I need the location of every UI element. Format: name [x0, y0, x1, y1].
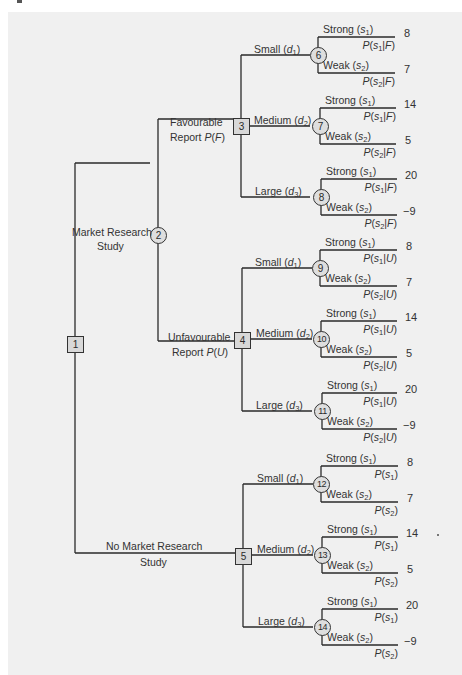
paren: ) — [369, 201, 373, 213]
state-label-weak: Weak (s2) — [325, 272, 371, 284]
branch-label-unfavourable: Unfavourable — [168, 331, 230, 343]
paren: ) — [373, 307, 377, 319]
node-number: 13 — [318, 550, 327, 560]
prob-part: ) — [394, 217, 398, 229]
state-label-strong: Strong (s1) — [323, 23, 373, 35]
prob-part: ) — [394, 359, 398, 371]
node-number: 10 — [317, 334, 326, 344]
prob-part: U — [386, 395, 394, 407]
state-label-strong: Strong (s1) — [326, 307, 376, 319]
decision-node-5: 5 — [235, 548, 252, 565]
state-text: Strong ( — [326, 165, 363, 177]
payoff-value: 5 — [405, 134, 411, 146]
label-text: Small — [255, 256, 281, 268]
probability-label: P(s1) — [375, 611, 398, 623]
probability-label: P(s2|F) — [364, 217, 397, 229]
probability-label: P(s2) — [375, 647, 398, 659]
label-prefix: Report — [172, 346, 206, 358]
node-number: 6 — [316, 50, 322, 61]
decision-label-large-U: Large (d3) — [256, 399, 303, 411]
branch-label-no-market-research: No Market Research — [106, 540, 202, 552]
decision-label-small-F: Small (d1) — [254, 43, 300, 55]
probability-label: P(s1|F) — [362, 39, 395, 51]
state-text: Strong ( — [327, 523, 364, 535]
state-label-weak: Weak (s2) — [323, 59, 369, 71]
payoff-value: 8 — [406, 240, 412, 252]
label-prefix: Report — [170, 131, 204, 143]
state-text: Strong ( — [325, 94, 362, 106]
prob-part: P — [375, 647, 382, 659]
decision-node-4: 4 — [234, 332, 251, 349]
state-text: Weak ( — [326, 343, 359, 355]
subscript: 2 — [307, 548, 311, 557]
node-number: 12 — [317, 479, 326, 489]
payoff-value: 20 — [406, 599, 418, 611]
decision-node-3: 3 — [233, 118, 250, 135]
paren: ) — [221, 131, 225, 143]
paren: ) — [370, 415, 374, 427]
stray-mark — [437, 534, 439, 536]
subscript: 3 — [294, 190, 298, 199]
probability-label: P(s1|F) — [363, 110, 396, 122]
label-line: Study — [97, 240, 124, 252]
prob-part: P — [375, 539, 382, 551]
prob-part: P — [375, 504, 382, 516]
label-text: Large — [256, 399, 283, 411]
probability-label: P(s2|F) — [362, 75, 395, 87]
state-text: Weak ( — [325, 130, 358, 142]
payoff-value: −9 — [403, 205, 416, 217]
prob-part: ) — [394, 288, 398, 300]
node-number: 4 — [240, 335, 246, 346]
prob-part: U — [386, 288, 394, 300]
prob-part: ) — [393, 146, 397, 158]
label-text: Small — [257, 472, 283, 484]
paren: ) — [370, 559, 374, 571]
label-text: Large — [258, 615, 285, 627]
prob-part: U — [386, 252, 394, 264]
state-label-weak: Weak (s2) — [326, 488, 372, 500]
prob-part: P — [375, 611, 382, 623]
decision-label-medium-F: Medium (d2) — [254, 114, 311, 126]
label-text: Medium — [254, 114, 291, 126]
state-text: Weak ( — [327, 631, 360, 643]
state-label-strong: Strong (s1) — [325, 236, 375, 248]
subscript: 2 — [304, 119, 308, 128]
prob-part: ) — [394, 323, 398, 335]
branch-label-favourable-prob: Report P(F) — [170, 131, 225, 143]
label-line: No Market Research — [106, 540, 202, 552]
branch-label-unfavourable-prob: Report P(U) — [172, 346, 228, 358]
state-text: Weak ( — [323, 59, 356, 71]
state-text: Weak ( — [326, 201, 359, 213]
node-number: 8 — [319, 192, 325, 203]
payoff-value: 8 — [407, 456, 413, 468]
payoff-value: −9 — [403, 419, 416, 431]
node-number: 14 — [318, 622, 327, 632]
paren: ) — [370, 23, 374, 35]
paren: ) — [373, 452, 377, 464]
payoff-value: 7 — [407, 492, 413, 504]
label-line: Market Research — [72, 226, 152, 238]
branch-label-market-research: Market Research — [72, 226, 152, 238]
prob-part: ) — [395, 504, 399, 516]
state-label-weak: Weak (s2) — [326, 201, 372, 213]
state-label-weak: Weak (s2) — [327, 631, 373, 643]
subscript: 1 — [296, 477, 300, 486]
probability-label: P(s2|U) — [363, 431, 397, 443]
paren: ) — [374, 595, 378, 607]
subscript: 1 — [294, 261, 298, 270]
state-text: Strong ( — [323, 23, 360, 35]
state-text: Weak ( — [327, 415, 360, 427]
state-label-weak: Weak (s2) — [326, 343, 372, 355]
payoff-value: 5 — [406, 347, 412, 359]
paren: ) — [366, 59, 370, 71]
prob-part: ) — [395, 611, 399, 623]
paren: ) — [369, 343, 373, 355]
payoff-value: 5 — [407, 563, 413, 575]
branch-label-no-market-research-line2: Study — [140, 556, 167, 568]
prob-part: ) — [393, 110, 397, 122]
prob-part: U — [386, 431, 394, 443]
node-number: 3 — [239, 121, 245, 132]
chance-node-2: 2 — [150, 227, 167, 244]
state-text: Weak ( — [325, 272, 358, 284]
paren: ) — [374, 379, 378, 391]
